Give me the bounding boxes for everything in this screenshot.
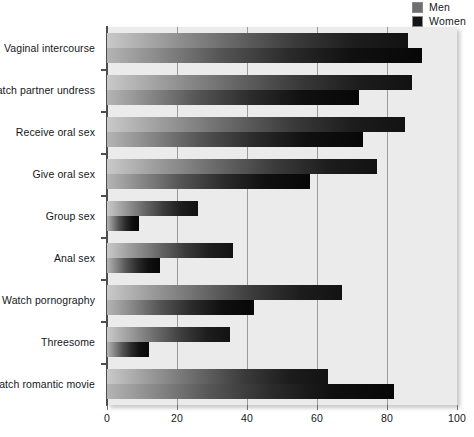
bar-men bbox=[107, 369, 328, 384]
bar-chart: Men Women 020406080100Vaginal intercours… bbox=[0, 0, 474, 437]
bar-women bbox=[107, 48, 422, 63]
bar-men bbox=[107, 33, 408, 48]
y-tick-1 bbox=[101, 69, 108, 71]
y-tick-6 bbox=[101, 279, 108, 281]
category-label: Group sex bbox=[0, 210, 95, 223]
y-tick-2 bbox=[101, 111, 108, 113]
bar-men bbox=[107, 285, 342, 300]
bar-women bbox=[107, 384, 394, 399]
y-tick-8 bbox=[101, 363, 108, 365]
category-label: Threesome bbox=[0, 336, 95, 349]
x-tick-60 bbox=[317, 405, 318, 410]
category-label: Give oral sex bbox=[0, 168, 95, 181]
bar-women bbox=[107, 300, 254, 315]
x-axis-label-60: 60 bbox=[311, 412, 323, 424]
y-tick-7 bbox=[101, 321, 108, 323]
x-tick-100 bbox=[457, 405, 458, 410]
x-axis-label-100: 100 bbox=[448, 412, 466, 424]
x-tick-80 bbox=[387, 405, 388, 410]
bar-women bbox=[107, 90, 359, 105]
x-tick-40 bbox=[247, 405, 248, 410]
category-label: Receive oral sex bbox=[0, 126, 95, 139]
x-tick-0 bbox=[107, 405, 108, 410]
x-axis-label-40: 40 bbox=[241, 412, 253, 424]
bar-men bbox=[107, 243, 233, 258]
y-tick-5 bbox=[101, 237, 108, 239]
category-label: Watch pornography bbox=[0, 294, 95, 307]
y-tick-3 bbox=[101, 153, 108, 155]
category-label: Watch partner undress bbox=[0, 84, 95, 97]
legend-item-men: Men bbox=[412, 2, 466, 13]
category-label: Vaginal intercourse bbox=[0, 42, 95, 55]
legend-swatch-women bbox=[412, 16, 423, 27]
y-tick-4 bbox=[101, 195, 108, 197]
bar-men bbox=[107, 117, 405, 132]
bar-men bbox=[107, 201, 198, 216]
bar-women bbox=[107, 342, 149, 357]
bar-men bbox=[107, 327, 230, 342]
bar-women bbox=[107, 174, 310, 189]
category-label: Watch romantic movie bbox=[0, 378, 95, 391]
chart-legend: Men Women bbox=[412, 2, 466, 27]
bar-women bbox=[107, 132, 363, 147]
x-axis-label-20: 20 bbox=[171, 412, 183, 424]
bar-women bbox=[107, 258, 160, 273]
x-tick-20 bbox=[177, 405, 178, 410]
legend-label-men: Men bbox=[429, 2, 450, 13]
bar-men bbox=[107, 159, 377, 174]
x-axis-label-0: 0 bbox=[104, 412, 110, 424]
legend-swatch-men bbox=[412, 2, 423, 13]
legend-label-women: Women bbox=[429, 16, 466, 27]
bar-men bbox=[107, 75, 412, 90]
legend-item-women: Women bbox=[412, 16, 466, 27]
x-axis-label-80: 80 bbox=[381, 412, 393, 424]
bar-women bbox=[107, 216, 139, 231]
category-label: Anal sex bbox=[0, 252, 95, 265]
